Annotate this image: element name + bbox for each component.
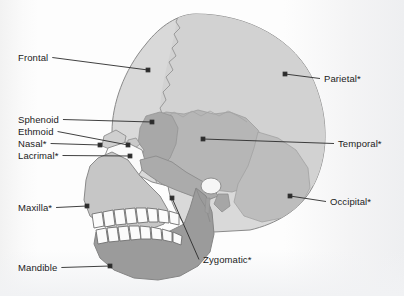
label-occipital: Occipital* xyxy=(330,196,371,207)
label-zygomatic: Zygomatic* xyxy=(203,254,252,265)
label-temporal: Temporal* xyxy=(338,138,382,149)
label-sphenoid: Sphenoid xyxy=(18,114,59,125)
leader-line-mandible xyxy=(61,266,110,268)
label-nasal: Nasal* xyxy=(18,138,47,149)
styloid-process xyxy=(205,198,210,214)
label-parietal: Parietal* xyxy=(324,73,361,84)
label-ethmoid: Ethmoid xyxy=(18,126,54,137)
label-lacrimal: Lacrimal* xyxy=(18,150,59,161)
leader-dot-nasal xyxy=(98,143,102,147)
leader-line-nasal xyxy=(51,144,100,146)
auditory-meatus xyxy=(201,178,221,194)
skull-diagram: FrontalSphenoidEthmoidNasal*Lacrimal*Max… xyxy=(0,0,404,296)
leader-line-maxilla xyxy=(56,206,87,208)
label-maxilla: Maxilla* xyxy=(18,202,52,213)
label-frontal: Frontal xyxy=(18,52,48,63)
label-mandible: Mandible xyxy=(18,262,57,273)
